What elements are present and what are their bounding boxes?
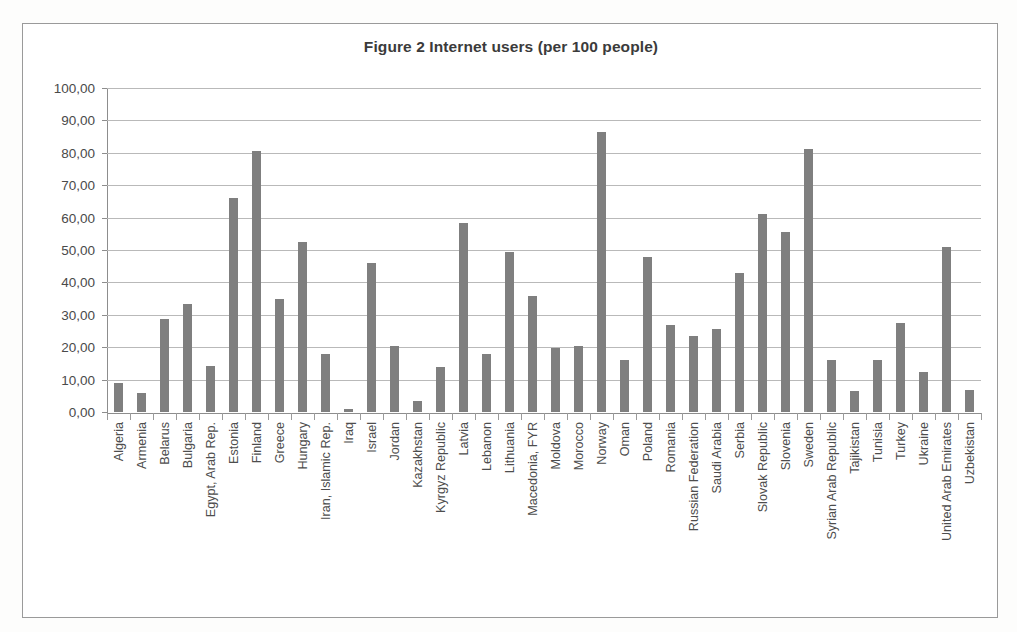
x-label-cell: Ukraine [912,422,935,622]
y-tick-label: 80,00 [61,145,95,160]
x-label-cell: Uzbekistan [958,422,981,622]
x-tickmark [567,413,568,420]
bar [850,391,859,412]
x-label-cell: Algeria [107,422,130,622]
x-tickmark [590,413,591,420]
x-tickmark [958,413,959,420]
x-label-cell: Turkey [889,422,912,622]
bar [712,329,721,412]
chart-frame: Figure 2 Internet users (per 100 people)… [22,23,998,618]
x-label-cell: Estonia [222,422,245,622]
bar-cell [107,88,130,412]
bar [275,299,284,412]
x-label-cell: Iran, Islamic Rep. [314,422,337,622]
bar-cell [544,88,567,412]
x-label-cell: Kazakhstan [406,422,429,622]
x-tickmark [245,413,246,420]
bar-cell [567,88,590,412]
bar-series [107,88,981,412]
bar-cell [820,88,843,412]
bar [206,366,215,412]
bar [597,132,606,412]
bar-cell [774,88,797,412]
x-tickmark [843,413,844,420]
bar [574,346,583,412]
x-tick-label: Lebanon [480,422,494,471]
x-tickmark [935,413,936,420]
x-label-cell: Bulgaria [176,422,199,622]
x-label-cell: Tajikistan [843,422,866,622]
x-tick-label: Oman [618,422,632,456]
bar-cell [889,88,912,412]
bar [137,393,146,412]
x-label-cell: Belarus [153,422,176,622]
x-tick-label: Algeria [112,422,126,461]
x-tickmark [797,413,798,420]
bar-cell [153,88,176,412]
bar [321,354,330,412]
x-label-cell: Egypt, Arab Rep. [199,422,222,622]
y-tick-label: 50,00 [61,243,95,258]
bar-cell [912,88,935,412]
bar-cell [176,88,199,412]
x-tick-label: Syrian Arab Republic [825,422,839,540]
bar-cell [360,88,383,412]
x-tickmark [337,413,338,420]
bar-cell [866,88,889,412]
y-tick-label: 60,00 [61,210,95,225]
x-tick-label: Belarus [158,422,172,465]
x-tick-label: Morocco [572,422,586,470]
bar-cell [199,88,222,412]
x-tick-label: Kyrgyz Republic [434,422,448,513]
x-tickmark [383,413,384,420]
bar-cell [797,88,820,412]
bar [229,198,238,412]
bar [436,367,445,412]
x-tick-label: Norway [595,422,609,465]
x-tickmark [153,413,154,420]
y-tick-label: 20,00 [61,340,95,355]
bar-cell [521,88,544,412]
bar [965,390,974,412]
x-axis-labels: AlgeriaArmeniaBelarusBulgariaEgypt, Arab… [107,422,981,622]
bar-cell [291,88,314,412]
bar [160,319,169,412]
x-tickmark [613,413,614,420]
x-tickmark [176,413,177,420]
x-tickmark [636,413,637,420]
x-tickmark [866,413,867,420]
x-label-cell: Iraq [337,422,360,622]
bar [114,383,123,412]
x-tick-label: Saudi Arabia [710,422,724,493]
x-tick-label: Serbia [733,422,747,458]
x-label-cell: Russian Federation [682,422,705,622]
x-tick-label: Armenia [135,422,149,469]
bar [827,360,836,412]
bar-cell [751,88,774,412]
bar-cell [475,88,498,412]
x-label-cell: Moldova [544,422,567,622]
x-tickmark [199,413,200,420]
x-tick-label: Ukraine [917,422,931,465]
bar [643,257,652,412]
x-tick-label: Israel [365,422,379,453]
bar-cell [613,88,636,412]
x-tickmark [728,413,729,420]
chart-title: Figure 2 Internet users (per 100 people) [23,38,999,56]
x-label-cell: Lebanon [475,422,498,622]
x-tickmark [314,413,315,420]
bar [252,151,261,412]
bar-cell [590,88,613,412]
x-label-cell: Sweden [797,422,820,622]
bar-cell [728,88,751,412]
x-label-cell: Slovak Republic [751,422,774,622]
bar [413,401,422,412]
x-label-cell: Armenia [130,422,153,622]
x-tick-label: Hungary [296,422,310,470]
x-label-cell: Slovenia [774,422,797,622]
bar [505,252,514,412]
bar-cell [452,88,475,412]
x-tickmark [130,413,131,420]
x-tickmark [268,413,269,420]
x-label-cell: Poland [636,422,659,622]
